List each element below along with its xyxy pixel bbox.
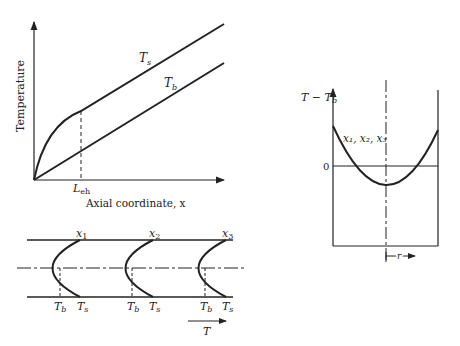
tb-label-x2: Tb: [127, 300, 139, 314]
temperature-vs-axial-plot: Temperature Axial coordinate, x Leh Ts T…: [14, 22, 224, 209]
ts-label: Ts: [139, 51, 151, 67]
ts-label-x2: Ts: [149, 300, 160, 314]
radial-profiles-diagram: x1 x2 x3 Tb Ts Tb Ts Tb Ts T: [17, 227, 246, 338]
ts-label-x3: Ts: [222, 300, 233, 314]
tb-label-x3: Tb: [200, 300, 212, 314]
t-arrow-label: T: [203, 325, 212, 338]
tb-label-x1: Tb: [54, 300, 66, 314]
ylabel: Temperature: [14, 60, 27, 132]
ts-label-x1: Ts: [77, 300, 88, 314]
diagram-canvas: Temperature Axial coordinate, x Leh Ts T…: [0, 0, 460, 346]
temperature-difference-radial-plot: T − Tb 0 x₁, x₂, x₃ r: [301, 80, 438, 262]
station-x3-label: x3: [222, 227, 233, 241]
xlabel: Axial coordinate, x: [85, 197, 186, 209]
station-x2-label: x2: [149, 227, 160, 241]
ts-curve: [34, 24, 224, 180]
tb-label: Tb: [164, 76, 177, 92]
station-x1-label: x1: [76, 227, 87, 241]
curve-stations-label: x₁, x₂, x₃: [343, 132, 387, 144]
leh-label: Leh: [72, 182, 90, 196]
zero-label: 0: [323, 161, 329, 172]
r-label: r: [397, 251, 402, 261]
right-ylabel: T − Tb: [301, 91, 337, 105]
